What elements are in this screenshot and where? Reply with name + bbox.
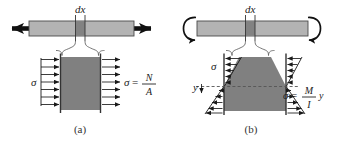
stress-distribution-figure: dx <box>0 0 341 141</box>
panel-a-stress-arrows-left <box>41 58 59 106</box>
panel-a-formula-numerator: N <box>145 72 154 83</box>
panel-b-formula-numerator: M <box>304 85 314 96</box>
panel-b-formula: σ = M I y <box>283 85 324 110</box>
panel-a-formula-lhs: σ <box>124 76 130 88</box>
panel-a-caption: (a) <box>74 123 87 136</box>
panel-b-element-block <box>224 54 286 116</box>
panel-b-stress-arrows-lower-left <box>205 87 224 114</box>
panel-b-stress-arrows-upper-right <box>287 57 303 86</box>
panel-a-formula-denominator: A <box>145 86 153 97</box>
panel-b-dx-slice <box>246 21 256 36</box>
panel-a-sigma-label: σ <box>31 76 37 88</box>
panel-a: dx <box>12 3 156 136</box>
panel-a-bar-assembly <box>12 15 151 41</box>
panel-a-block-fill <box>61 57 101 110</box>
panel-b: dx <box>184 3 325 136</box>
panel-b-y-axis-label: y <box>192 81 202 93</box>
panel-b-formula-equals: = <box>291 89 297 101</box>
panel-b-caption: (b) <box>245 123 258 136</box>
panel-b-expansion-brace <box>226 41 275 56</box>
panel-b-sigma-label: σ <box>211 60 217 72</box>
panel-a-expansion-brace <box>56 41 105 56</box>
panel-a-formula-equals: = <box>132 76 138 88</box>
figure-canvas: dx <box>0 0 341 141</box>
panel-b-formula-denominator: I <box>306 99 311 110</box>
panel-b-y-label: y <box>192 81 198 93</box>
panel-b-block-fill <box>224 57 286 111</box>
panel-b-dx-label: dx <box>245 3 256 15</box>
panel-a-formula: σ = N A <box>124 72 156 97</box>
moment-arrow-left <box>184 17 197 40</box>
panel-b-formula-lhs: σ <box>283 89 289 101</box>
panel-b-formula-trailing: y <box>318 90 324 101</box>
moment-arrow-right <box>308 17 321 40</box>
panel-a-stress-arrows-right <box>102 60 120 105</box>
panel-a-dx-label: dx <box>75 3 86 15</box>
panel-a-dx-slice <box>76 21 86 36</box>
panel-a-element-block <box>61 54 101 114</box>
panel-b-bar-assembly <box>184 15 321 41</box>
